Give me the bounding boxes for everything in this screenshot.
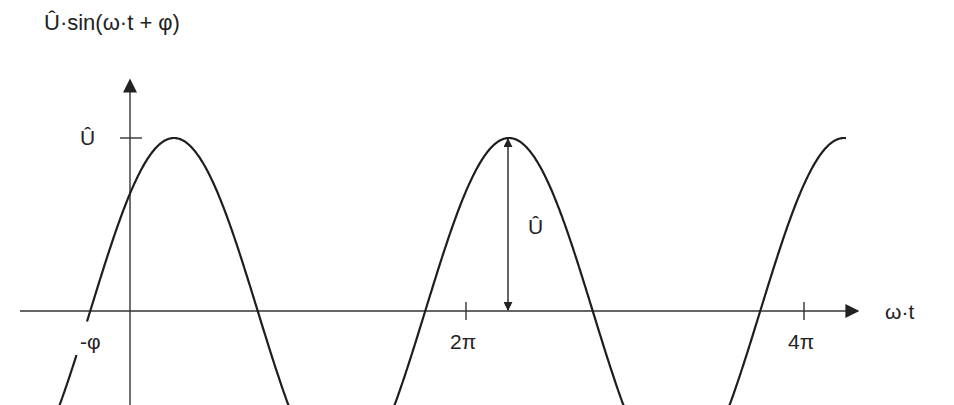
y-tick-label-amplitude: Û [80,127,95,148]
x-axis-label: ω·t [885,301,914,322]
sine-curve [87,138,846,405]
sine-curve-segment [60,355,77,405]
chart-title: Û·sin(ω·t + φ) [44,12,180,34]
x-tick-label-neg-phi: -φ [80,331,101,352]
x-tick-label-4pi: 4π [788,331,814,352]
amplitude-label: Û [528,216,543,237]
x-tick-label-2pi: 2π [450,331,476,352]
